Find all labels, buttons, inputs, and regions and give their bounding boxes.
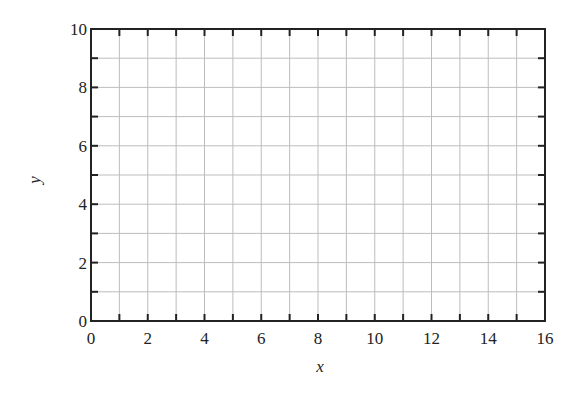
- x-tick-label: 8: [314, 329, 323, 348]
- y-tick-label: 6: [79, 137, 88, 156]
- x-tick-label: 10: [366, 329, 383, 348]
- x-tick-labels: 0246810121416: [87, 329, 554, 348]
- x-tick-label: 6: [257, 329, 266, 348]
- y-tick-label: 0: [79, 312, 88, 331]
- x-tick-label: 0: [87, 329, 96, 348]
- chart: 0246810121416 0246810 x y: [0, 0, 583, 399]
- y-tick-label: 4: [79, 195, 88, 214]
- x-tick-label: 4: [200, 329, 209, 348]
- x-tick-label: 14: [480, 329, 498, 348]
- y-tick-labels: 0246810: [70, 20, 88, 331]
- grid-lines: [91, 29, 545, 321]
- x-axis-title: x: [315, 357, 324, 376]
- x-tick-label: 12: [423, 329, 440, 348]
- x-tick-label: 16: [537, 329, 554, 348]
- y-tick-label: 8: [79, 78, 88, 97]
- y-axis-title: y: [25, 176, 44, 186]
- y-tick-label: 10: [70, 20, 87, 39]
- x-tick-label: 2: [144, 329, 153, 348]
- y-tick-label: 2: [79, 254, 88, 273]
